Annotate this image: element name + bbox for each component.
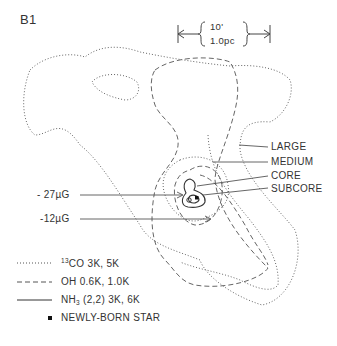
contour-map-figure: B1 10' 1.0pc LARGE MEDIUM CORE SUBCORE -…	[0, 0, 337, 346]
label-field-12: -12µG	[40, 214, 70, 224]
legend-oh: OH 0.6K, 1.0K	[61, 277, 129, 287]
legend-star: NEWLY-BORN STAR	[61, 313, 160, 323]
leader-large	[239, 145, 268, 147]
panel-label: B1	[20, 13, 37, 26]
legend-nh3: NH3 (2,2) 3K, 6K	[61, 295, 140, 307]
label-medium: MEDIUM	[271, 157, 313, 167]
co-contour-island	[92, 75, 139, 101]
scale-distance: 1.0pc	[210, 36, 235, 46]
co-contour-lower	[180, 135, 278, 289]
legend-co-text: CO 3K, 5K	[69, 258, 120, 269]
leader-core	[197, 176, 268, 186]
legend-star-marker	[48, 316, 52, 320]
label-subcore: SUBCORE	[271, 184, 323, 194]
co-contour-inner	[163, 157, 228, 221]
leader-subcore	[203, 188, 268, 195]
oh-contour-outer	[151, 58, 268, 286]
legend-nh3-main: NH	[61, 294, 76, 305]
scale-angle: 10'	[210, 22, 223, 32]
legend-co-isotope: 13	[61, 257, 69, 264]
label-core: CORE	[271, 171, 301, 181]
legend-nh3-rest: (2,2) 3K, 6K	[80, 294, 140, 305]
label-field-27: - 27µG	[37, 190, 70, 200]
newly-born-star-marker	[195, 196, 199, 200]
label-large: LARGE	[271, 142, 306, 152]
legend-co: 13CO 3K, 5K	[61, 258, 119, 269]
